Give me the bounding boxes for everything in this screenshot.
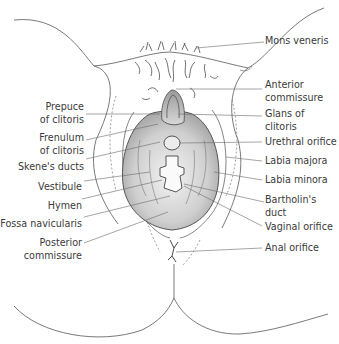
- label-fossa-navicularis: Fossa navicularis: [0, 218, 82, 231]
- label-anal-orifice: Anal orifice: [265, 242, 319, 255]
- label-skenes-ducts: Skene's ducts: [18, 161, 84, 174]
- mons-hair: [135, 41, 218, 100]
- label-hymen: Hymen: [48, 200, 82, 213]
- label-urethral-orifice: Urethral orifice: [265, 136, 337, 149]
- label-bartholins-duct: Bartholin's duct: [265, 194, 316, 219]
- label-vestibule: Vestibule: [38, 181, 82, 194]
- urethral-orifice: [164, 136, 180, 150]
- label-anterior-commissure: Anterior commissure: [265, 79, 323, 104]
- anal-orifice: [168, 240, 178, 262]
- label-posterior-commissure: Posterior commissure: [24, 237, 82, 262]
- label-vaginal-orifice: Vaginal orifice: [265, 221, 333, 234]
- label-labia-minora: Labia minora: [265, 174, 328, 187]
- label-labia-majora: Labia majora: [265, 155, 328, 168]
- label-frenulum-of-clitoris: Frenulum of clitoris: [39, 132, 84, 157]
- label-prepuce-of-clitoris: Prepuce of clitoris: [40, 101, 84, 126]
- label-glans-of-clitoris: Glans of clitoris: [265, 108, 304, 133]
- label-mons-veneris: Mons veneris: [265, 35, 328, 48]
